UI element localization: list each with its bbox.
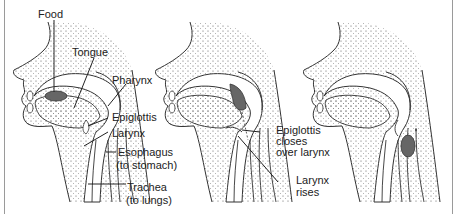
- label-pharynx: Pharynx: [112, 74, 152, 86]
- label-epiglottis: Epiglottis: [112, 111, 157, 123]
- label-esophagus-note: (to stomach): [116, 159, 177, 171]
- label-larynx-rises-1: Larynx: [296, 174, 329, 186]
- label-epiglottis-closes-3: over larynx: [276, 146, 330, 158]
- label-larynx-rises-2: rises: [296, 186, 319, 198]
- diagram-artwork: [0, 0, 456, 214]
- swallowing-diagram: Food Tongue Pharynx Epiglottis Larynx Es…: [0, 0, 456, 214]
- label-food: Food: [38, 8, 63, 20]
- label-trachea-note: (to lungs): [126, 194, 172, 206]
- label-tongue: Tongue: [72, 46, 108, 58]
- label-trachea: Trachea: [127, 181, 167, 193]
- label-larynx: Larynx: [112, 127, 145, 139]
- panel-2-head: [155, 22, 292, 202]
- label-esophagus: Esophagus: [118, 146, 173, 158]
